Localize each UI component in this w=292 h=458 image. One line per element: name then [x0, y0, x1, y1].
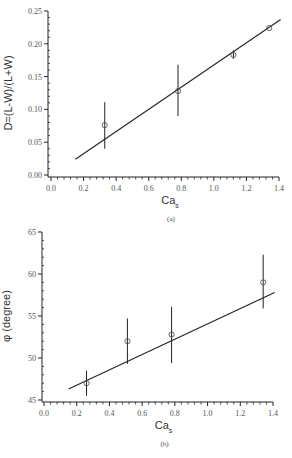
- x-tick-label: 1.4: [268, 409, 278, 418]
- x-tick-label: 1.0: [209, 184, 219, 193]
- y-tick-label: 0.15: [28, 73, 42, 82]
- x-tick-label: 0.2: [72, 409, 82, 418]
- x-tick-label: 0.6: [137, 409, 147, 418]
- x-axis-title: Cas: [155, 419, 173, 434]
- x-tick-label: 1.2: [235, 409, 245, 418]
- y-axis-title: D=(L-W)/(L+W): [2, 55, 14, 130]
- x-tick-label: 0.2: [79, 184, 89, 193]
- y-tick-label: 45: [28, 396, 36, 405]
- x-tick-label: 0.4: [104, 409, 114, 418]
- y-tick-label: 0.10: [28, 105, 42, 114]
- y-tick-label: 60: [28, 270, 36, 279]
- figure-caption: (b): [160, 440, 169, 448]
- x-tick-label: 0.0: [46, 184, 56, 193]
- y-tick-label: 0.05: [28, 138, 42, 147]
- figure-caption: (a): [167, 215, 175, 223]
- y-tick-label: 0.20: [28, 40, 42, 49]
- x-tick-label: 1.0: [203, 409, 213, 418]
- chart-b-angle: 45505560650.00.20.40.60.81.01.21.4Casφ (…: [0, 228, 278, 448]
- y-axis-title: φ (degree): [0, 290, 12, 342]
- x-tick-label: 1.2: [241, 184, 251, 193]
- chart-a-deformation: 0.000.050.100.150.200.250.00.20.40.60.81…: [2, 7, 284, 223]
- figure: 0.000.050.100.150.200.250.00.20.40.60.81…: [0, 0, 292, 458]
- x-axis-title: Cas: [161, 194, 179, 209]
- x-tick-label: 0.8: [176, 184, 186, 193]
- y-tick-label: 0.00: [28, 171, 42, 180]
- y-tick-label: 0.25: [28, 7, 42, 16]
- x-tick-label: 0.8: [170, 409, 180, 418]
- x-tick-label: 0.0: [39, 409, 49, 418]
- y-tick-label: 55: [28, 312, 36, 321]
- x-tick-label: 0.4: [111, 184, 121, 193]
- x-tick-label: 0.6: [144, 184, 154, 193]
- y-tick-label: 50: [28, 354, 36, 363]
- x-tick-label: 1.4: [274, 184, 284, 193]
- y-tick-label: 65: [28, 228, 36, 237]
